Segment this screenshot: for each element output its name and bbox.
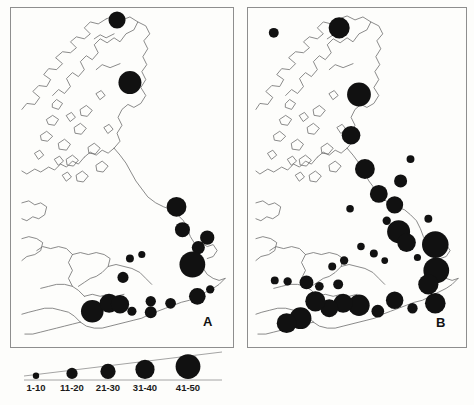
map-symbol bbox=[424, 215, 432, 223]
map-symbol bbox=[414, 254, 421, 261]
map-symbol bbox=[109, 11, 126, 28]
data-points-a bbox=[81, 11, 214, 322]
map-symbol bbox=[397, 233, 416, 252]
map-symbol bbox=[206, 285, 214, 293]
legend-label: 31-40 bbox=[133, 382, 157, 393]
map-panel-a: A bbox=[10, 7, 234, 348]
legend-symbol bbox=[176, 354, 201, 379]
map-symbol bbox=[422, 231, 449, 258]
map-symbol bbox=[189, 288, 206, 305]
map-symbol bbox=[347, 83, 371, 107]
map-symbol bbox=[394, 174, 407, 187]
map-symbol bbox=[346, 205, 354, 213]
map-symbol bbox=[200, 230, 214, 244]
legend-label: 41-50 bbox=[176, 382, 200, 393]
map-symbol bbox=[126, 255, 134, 263]
legend-symbol bbox=[135, 360, 154, 379]
map-symbol bbox=[407, 303, 417, 313]
map-symbol bbox=[342, 126, 361, 145]
map-symbol bbox=[386, 292, 403, 309]
map-symbol bbox=[333, 279, 343, 289]
map-symbol bbox=[277, 313, 297, 333]
map-symbol bbox=[283, 277, 291, 285]
map-panel-b: B bbox=[247, 7, 467, 348]
map-symbol bbox=[370, 185, 388, 203]
map-symbol bbox=[357, 243, 365, 251]
map-symbol bbox=[138, 251, 145, 258]
legend-label: 11-20 bbox=[60, 382, 84, 393]
map-symbol bbox=[127, 307, 136, 316]
map-symbol bbox=[167, 197, 187, 217]
map-symbol bbox=[117, 272, 128, 283]
map-symbol bbox=[179, 252, 205, 278]
coastline-a bbox=[22, 16, 225, 334]
map-symbol bbox=[425, 293, 446, 314]
map-symbol bbox=[175, 222, 190, 237]
map-symbol bbox=[386, 196, 403, 213]
map-symbol bbox=[145, 306, 157, 318]
map-a-svg bbox=[11, 8, 233, 347]
map-b-svg bbox=[248, 8, 466, 347]
map-symbol bbox=[328, 262, 336, 270]
map-symbol bbox=[146, 296, 156, 306]
map-symbol bbox=[371, 305, 384, 318]
panel-label-b: B bbox=[436, 315, 446, 330]
legend-label: 1-10 bbox=[26, 382, 45, 393]
map-symbol bbox=[370, 250, 378, 258]
map-symbol bbox=[418, 274, 438, 294]
map-symbol bbox=[355, 159, 375, 179]
legend-symbol bbox=[33, 373, 39, 379]
map-symbol bbox=[383, 217, 391, 225]
legend-symbol bbox=[100, 364, 115, 379]
map-symbol bbox=[315, 282, 324, 291]
map-symbol bbox=[269, 28, 279, 38]
map-symbol bbox=[271, 276, 279, 284]
distribution-map-figure: A bbox=[0, 0, 474, 405]
legend-labels: 1-1011-2021-3031-4041-50 bbox=[10, 382, 234, 400]
map-symbol bbox=[329, 17, 350, 38]
map-symbol bbox=[407, 155, 415, 163]
map-symbol bbox=[118, 71, 141, 94]
panel-label-a: A bbox=[203, 314, 213, 329]
legend-symbol bbox=[66, 368, 77, 379]
size-legend: 1-1011-2021-3031-4041-50 bbox=[10, 348, 234, 404]
map-symbol bbox=[305, 291, 325, 311]
map-symbol bbox=[300, 275, 314, 289]
map-symbol bbox=[381, 257, 388, 264]
map-symbol bbox=[111, 295, 129, 313]
map-symbol bbox=[340, 256, 348, 264]
map-symbol bbox=[165, 298, 176, 309]
legend-label: 21-30 bbox=[96, 382, 120, 393]
